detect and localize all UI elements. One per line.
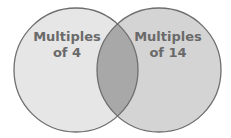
label-multiples-of-14-line1: Multiples [134,29,202,44]
label-multiples-of-14-line2: of 14 [149,45,186,60]
label-multiples-of-4-line2: of 4 [53,45,81,60]
venn-diagram: Multiples of 4 Multiples of 14 [0,0,231,138]
label-multiples-of-4-line1: Multiples [33,29,101,44]
